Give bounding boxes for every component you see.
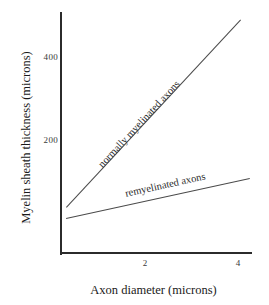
x-axis-tick-label-4: 4 [231,258,245,268]
x-axis-title: Axon diameter (microns) [46,283,261,298]
y-axis-title: Myelin sheath thickness (microns) [19,38,34,238]
y-axis-line [60,12,62,255]
y-axis-tick-label-400: 400 [32,52,58,62]
series-label-remyelinated-axons: remyelinated axons [124,171,206,199]
x-axis-line [60,252,252,254]
chart-figure: 400 200 2 4 Myelin sheath thickness (mic… [0,0,269,305]
series-label-normally-myelinated-axons: normally myelinated axons [96,78,182,169]
y-axis-tick-label-200: 200 [32,135,58,145]
x-axis-tick-label-2: 2 [138,258,152,268]
